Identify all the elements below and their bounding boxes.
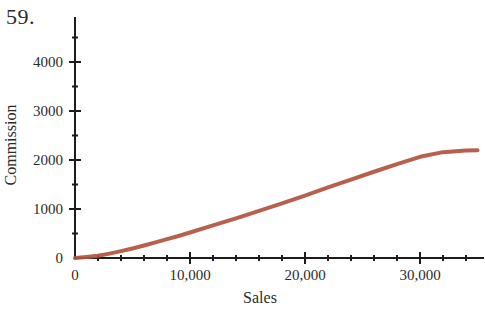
plot-area [75, 150, 478, 258]
x-axis-tick-labels: 010,00020,00030,000 [71, 267, 440, 283]
y-axis-tick-label: 3000 [33, 103, 63, 119]
x-axis-tick-label: 10,000 [169, 267, 210, 283]
chart-page: 59. 01000200030004000 010,00020,00030,00… [0, 0, 485, 312]
y-axis-tick-label: 1000 [33, 201, 63, 217]
x-axis: 010,00020,00030,000 [71, 252, 483, 283]
y-axis-tick-label: 0 [56, 250, 64, 266]
y-axis-tick-label: 2000 [33, 152, 63, 168]
y-axis: 01000200030004000 [33, 18, 81, 266]
commission-vs-sales-line-chart: 01000200030004000 010,00020,00030,000 Sa… [0, 0, 485, 312]
x-axis-tick-label: 20,000 [284, 267, 325, 283]
y-axis-title: Commission [2, 105, 19, 186]
x-axis-tick-label: 0 [71, 267, 79, 283]
y-axis-tick-label: 4000 [33, 54, 63, 70]
x-axis-tick-label: 30,000 [399, 267, 440, 283]
y-axis-tick-labels: 01000200030004000 [33, 54, 63, 266]
x-axis-title: Sales [243, 289, 277, 306]
commission-data-line [75, 150, 478, 258]
